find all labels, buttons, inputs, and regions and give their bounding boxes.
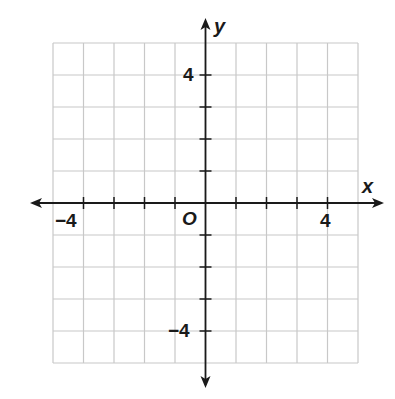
y-tick-label-neg4: −4 bbox=[168, 321, 190, 340]
coordinate-plane bbox=[0, 0, 395, 399]
x-tick-label-neg4: −4 bbox=[55, 211, 77, 230]
origin-label: O bbox=[182, 209, 197, 228]
x-tick-label-4: 4 bbox=[320, 211, 331, 230]
y-tick-label-4: 4 bbox=[183, 65, 194, 84]
y-axis-label: y bbox=[214, 16, 225, 36]
x-axis-label: x bbox=[362, 176, 373, 196]
